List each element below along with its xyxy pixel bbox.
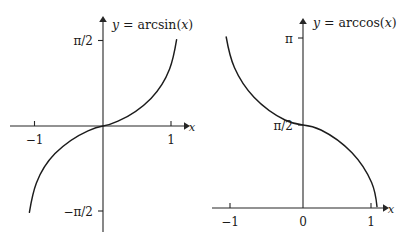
arcsin-ytick-label-pi-over-2: π/2 [73,34,93,48]
arcsin-title-fn: arcsin( [137,17,181,32]
arccos-xtick-label-neg1: −1 [221,215,239,229]
arcsin-xtick-label-neg1: −1 [26,133,44,147]
arccos-x-axis-label: x [388,202,395,216]
arcsin-plot: −1 1 π/2 −π/2 x y = arcsin(x) [0,0,201,238]
chart-panel-arccos: −1 0 1 π π/2 x y = arccos(x) [201,0,403,238]
arcsin-title-eq: = [119,17,137,32]
arccos-title: y = arccos(x) [312,15,397,30]
arccos-xtick-label-pos1: 1 [367,215,375,229]
arccos-title-eq: = [320,15,338,30]
arcsin-x-axis-label: x [189,120,196,134]
arccos-title-arg: x [385,15,392,30]
arccos-plot: −1 0 1 π π/2 x y = arccos(x) [201,0,403,238]
arcsin-title-close: ) [188,17,193,32]
arcsin-y-axis-arrow-icon [99,16,107,22]
arccos-ytick-label-pi: π [285,32,293,46]
arccos-y-axis-arrow-icon [299,18,307,24]
arccos-xtick-label-zero: 0 [299,215,307,229]
figure-container: −1 1 π/2 −π/2 x y = arcsin(x) [0,0,403,238]
arccos-title-close: ) [392,15,397,30]
chart-panel-arcsin: −1 1 π/2 −π/2 x y = arcsin(x) [0,0,201,238]
arcsin-title: y = arcsin(x) [111,17,193,32]
arcsin-xtick-label-pos1: 1 [167,133,175,147]
arccos-curve [226,37,377,207]
arccos-title-fn: arccos( [338,15,384,30]
arcsin-title-arg: x [181,17,188,32]
arcsin-ytick-label-neg-pi-over-2: −π/2 [63,205,93,219]
arccos-ytick-label-pi-over-2: π/2 [273,119,293,133]
